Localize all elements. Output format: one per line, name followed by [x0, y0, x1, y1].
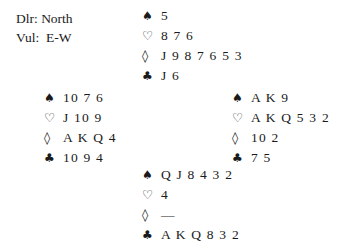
south-hearts-cards: 4 [161, 185, 169, 205]
club-icon: ♣ [142, 66, 161, 86]
dealer-value: North [41, 11, 73, 26]
heart-icon: ♡ [44, 108, 63, 128]
west-spades: ♠10 7 6 [44, 88, 117, 108]
deal-info: Dlr: North Vul: E-W [16, 9, 73, 47]
heart-icon: ♡ [142, 26, 161, 46]
west-clubs-cards: 10 9 4 [63, 148, 104, 168]
club-icon: ♣ [44, 148, 63, 168]
east-clubs-cards: 7 5 [251, 148, 271, 168]
diamond-icon: ◊ [142, 205, 161, 225]
north-hearts-cards: 8 7 6 [161, 26, 194, 46]
west-diamonds: ◊A K Q 4 [44, 128, 117, 148]
east-hearts: ♡A K Q 5 3 2 [232, 108, 330, 128]
spade-icon: ♠ [142, 165, 161, 185]
east-hand: ♠A K 9 ♡A K Q 5 3 2 ◊10 2 ♣7 5 [232, 88, 330, 168]
club-icon: ♣ [142, 225, 161, 245]
dealer-row: Dlr: North [16, 9, 73, 28]
west-hand: ♠10 7 6 ♡J 10 9 ◊A K Q 4 ♣10 9 4 [44, 88, 117, 168]
north-clubs: ♣J 6 [142, 66, 243, 86]
east-spades-cards: A K 9 [251, 88, 289, 108]
south-clubs: ♣A K Q 8 3 2 [142, 225, 240, 245]
north-hand: ♠5 ♡8 7 6 ◊J 9 8 7 6 5 3 ♣J 6 [142, 6, 243, 86]
south-diamonds: ◊— [142, 205, 240, 225]
west-spades-cards: 10 7 6 [63, 88, 104, 108]
diamond-icon: ◊ [232, 128, 251, 148]
north-diamonds-cards: J 9 8 7 6 5 3 [161, 46, 243, 66]
south-hand: ♠Q J 8 4 3 2 ♡4 ◊— ♣A K Q 8 3 2 [142, 165, 240, 245]
spade-icon: ♠ [44, 88, 63, 108]
vul-label: Vul: [16, 30, 39, 45]
south-hearts: ♡4 [142, 185, 240, 205]
heart-icon: ♡ [142, 185, 161, 205]
north-spades: ♠5 [142, 6, 243, 26]
vulnerability-row: Vul: E-W [16, 28, 73, 47]
diamond-icon: ◊ [44, 128, 63, 148]
east-diamonds: ◊10 2 [232, 128, 330, 148]
south-spades-cards: Q J 8 4 3 2 [161, 165, 233, 185]
north-diamonds: ◊J 9 8 7 6 5 3 [142, 46, 243, 66]
west-clubs: ♣10 9 4 [44, 148, 117, 168]
south-clubs-cards: A K Q 8 3 2 [161, 225, 240, 245]
east-clubs: ♣7 5 [232, 148, 330, 168]
west-hearts-cards: J 10 9 [63, 108, 102, 128]
heart-icon: ♡ [232, 108, 251, 128]
south-spades: ♠Q J 8 4 3 2 [142, 165, 240, 185]
south-diamonds-cards: — [161, 205, 176, 225]
north-clubs-cards: J 6 [161, 66, 180, 86]
west-hearts: ♡J 10 9 [44, 108, 117, 128]
east-diamonds-cards: 10 2 [251, 128, 279, 148]
spade-icon: ♠ [142, 6, 161, 26]
dealer-label: Dlr: [16, 11, 38, 26]
vul-value: E-W [46, 30, 71, 45]
west-diamonds-cards: A K Q 4 [63, 128, 117, 148]
north-hearts: ♡8 7 6 [142, 26, 243, 46]
north-spades-cards: 5 [161, 6, 169, 26]
diamond-icon: ◊ [142, 46, 161, 66]
east-hearts-cards: A K Q 5 3 2 [251, 108, 330, 128]
spade-icon: ♠ [232, 88, 251, 108]
east-spades: ♠A K 9 [232, 88, 330, 108]
